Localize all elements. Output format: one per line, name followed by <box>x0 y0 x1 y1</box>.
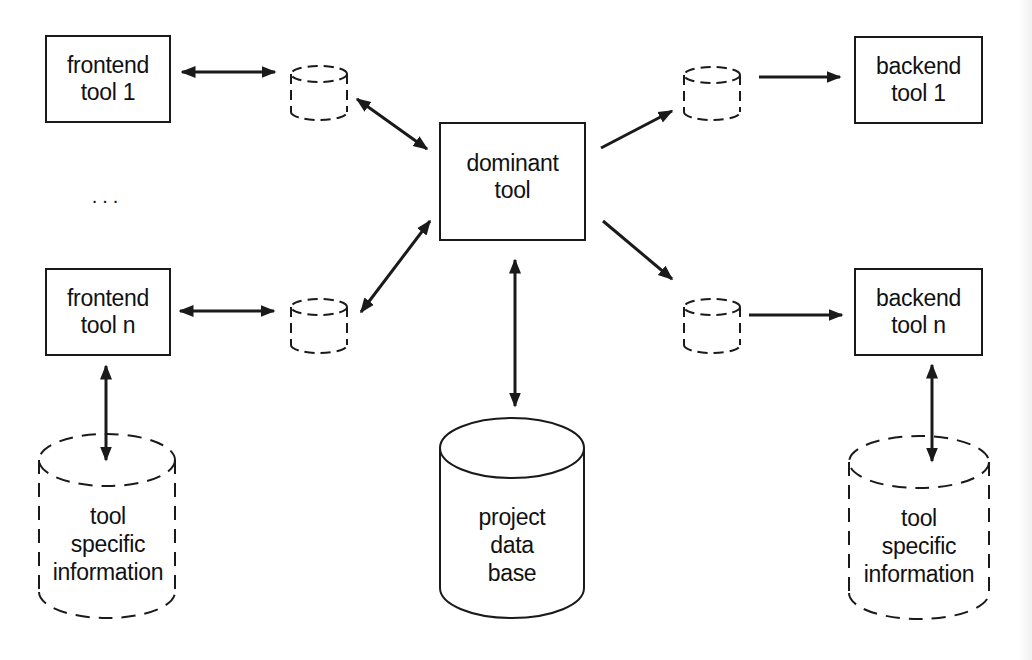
backend-tool-n-line1: backend <box>854 285 983 312</box>
backend-tool-n-label: backend tool n <box>854 285 983 339</box>
page-edge-shadow <box>1018 0 1032 660</box>
arrow-buffer1-dominant <box>357 99 427 149</box>
frontend-tool-n-label: frontend tool n <box>45 285 171 339</box>
tool-info-right-line3: information <box>848 560 990 588</box>
tool-info-left-line3: information <box>37 558 179 586</box>
dominant-tool-line2: tool <box>439 177 586 204</box>
arrow-dominant-buffer-backendn <box>603 221 672 279</box>
arrow-dominant-buffer-backend1 <box>601 111 672 148</box>
project-db-line2: data <box>440 531 584 559</box>
frontend-tool-n-line1: frontend <box>45 285 171 312</box>
backend-tool-n-line2: tool n <box>854 312 983 339</box>
frontend-tool-1-line1: frontend <box>45 52 171 79</box>
tool-info-right-line1: tool <box>848 504 990 532</box>
dominant-tool-label: dominant tool <box>439 150 586 204</box>
tool-info-left-label: tool specific information <box>37 502 179 586</box>
frontend-tool-1-label: frontend tool 1 <box>45 52 171 106</box>
tool-info-right-line2: specific <box>848 532 990 560</box>
buffer-frontend-1-cylinder <box>291 66 347 120</box>
backend-tool-1-line1: backend <box>854 53 983 80</box>
tool-info-left-line2: specific <box>37 530 179 558</box>
buffer-backend-1-cylinder <box>684 67 740 120</box>
project-db-line1: project <box>440 503 584 531</box>
backend-tool-1-line2: tool 1 <box>854 80 983 107</box>
project-db-label: project data base <box>440 503 584 587</box>
tool-info-right-label: tool specific information <box>848 504 990 588</box>
project-db-line3: base <box>440 559 584 587</box>
tool-info-left-line1: tool <box>37 502 179 530</box>
buffer-backend-n-cylinder <box>684 299 740 353</box>
buffer-frontend-n-cylinder <box>291 299 347 353</box>
arrow-buffern-dominant <box>361 221 430 312</box>
dominant-tool-line1: dominant <box>439 150 586 177</box>
frontend-tool-n-line2: tool n <box>45 312 171 339</box>
ellipsis: . . . <box>60 183 150 210</box>
frontend-tool-1-line2: tool 1 <box>45 79 171 106</box>
backend-tool-1-label: backend tool 1 <box>854 53 983 107</box>
